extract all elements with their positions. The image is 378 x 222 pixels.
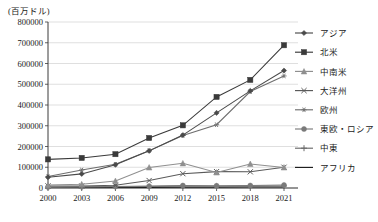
square-marker [301, 50, 306, 55]
y-axis-tick-label: 600000 [18, 59, 44, 69]
y-axis-tick-label: 500000 [18, 79, 44, 89]
x-axis-tick-label: 2000 [40, 193, 57, 203]
legend-item-2[interactable]: 中南米 [295, 67, 347, 77]
diamond-marker [281, 68, 286, 73]
x-axis-tick-label: 2018 [242, 193, 259, 203]
line-chart-svg: 0100000200000300000400000500000600000700… [0, 0, 378, 222]
chart-container: (百万ドル) 010000020000030000040000050000060… [0, 0, 378, 222]
legend-label: 東欧・ロシア [320, 124, 374, 134]
legend-label: 中東 [320, 143, 338, 153]
x-axis-tick-labels: 20002003200620092012201520182021 [40, 193, 293, 203]
series-1 [45, 43, 286, 162]
x-axis-tick-label: 2009 [141, 193, 158, 203]
y-axis-tick-label: 300000 [18, 121, 44, 131]
y-axis-tick-label: 800000 [18, 17, 44, 27]
legend-label: アジア [320, 28, 347, 38]
square-marker [79, 155, 84, 160]
square-marker [180, 123, 185, 128]
diamond-marker [147, 148, 152, 153]
diamond-marker [301, 30, 306, 35]
legend-item-1[interactable]: 北米 [295, 47, 338, 57]
legend-label: 中南米 [320, 67, 347, 77]
square-marker [113, 152, 118, 157]
square-marker [248, 77, 253, 82]
x-axis-tick-label: 2015 [208, 193, 225, 203]
square-marker [281, 43, 286, 48]
legend-label: 北米 [320, 47, 338, 57]
legend-group: アジア北米中南米大洋州欧州東欧・ロシア中東アフリカ [295, 28, 374, 172]
legend-item-4[interactable]: 欧州 [295, 105, 338, 115]
circle-marker [147, 184, 152, 189]
diamond-marker [79, 171, 84, 176]
circle-marker [282, 183, 287, 188]
circle-marker [248, 183, 253, 188]
plus-marker [301, 145, 307, 151]
circle-marker [214, 183, 219, 188]
series-line [48, 71, 284, 178]
legend-label: アフリカ [320, 163, 356, 173]
x-axis-tick-label: 2003 [73, 193, 90, 203]
diamond-marker [113, 162, 118, 167]
asterisk-marker [301, 108, 306, 113]
circle-marker [180, 183, 185, 188]
legend-item-0[interactable]: アジア [295, 28, 347, 38]
legend-label: 欧州 [320, 105, 338, 115]
y-axis-tick-label: 700000 [18, 38, 44, 48]
asterisk-marker [281, 74, 286, 79]
series-line [48, 45, 284, 159]
circle-marker [302, 127, 307, 132]
legend-item-6[interactable]: 中東 [295, 143, 338, 153]
legend-item-3[interactable]: 大洋州 [295, 86, 347, 96]
x-axis-tick-label: 2021 [276, 193, 293, 203]
diamond-marker [45, 175, 50, 180]
x-axis-tick-label: 2006 [107, 193, 124, 203]
y-axis-tick-labels: 0100000200000300000400000500000600000700… [18, 17, 44, 193]
y-axis-tick-label: 0 [39, 183, 43, 193]
square-marker [147, 135, 152, 140]
y-axis-tick-label: 100000 [18, 162, 44, 172]
plot-area: 0100000200000300000400000500000600000700… [0, 0, 378, 222]
square-marker [214, 94, 219, 99]
data-series-group [45, 43, 287, 191]
y-axis-tick-label: 200000 [18, 142, 44, 152]
gridlines-group [48, 22, 298, 188]
legend-label: 大洋州 [320, 86, 347, 96]
x-axis-tick-label: 2012 [174, 193, 191, 203]
axis-lines-group [45, 22, 298, 191]
y-axis-tick-label: 400000 [18, 100, 44, 110]
legend-item-7[interactable]: アフリカ [295, 163, 356, 173]
legend-item-5[interactable]: 東欧・ロシア [295, 124, 374, 134]
square-marker [45, 157, 50, 162]
